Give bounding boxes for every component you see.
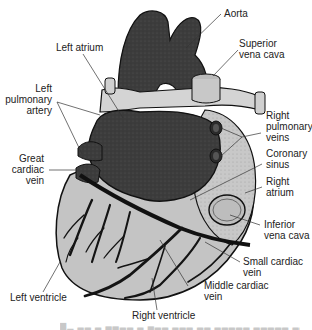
label-left-ventricle: Left ventricle [10, 292, 67, 303]
label-inferior-vena-cava-line2: vena cava [264, 230, 310, 241]
inferior-vena-cava-opening [209, 195, 245, 225]
label-right-pulmonary-veins-line1: Right [266, 110, 289, 121]
heart-diagram-figure: Aorta Superior vena cava Left atrium Lef… [0, 0, 312, 330]
label-great-cardiac-vein-line2: cardiac [12, 164, 44, 175]
label-left-atrium: Left atrium [56, 42, 103, 53]
label-right-atrium-line1: Right [266, 176, 289, 187]
label-coronary-sinus-line1: Coronary [266, 148, 307, 159]
label-left-pulmonary-artery-line3: artery [26, 105, 52, 116]
label-inferior-vena-cava-line1: Inferior [264, 219, 295, 230]
label-superior-vena-cava-line2: vena cava [239, 49, 285, 60]
label-great-cardiac-vein-line3: vein [26, 175, 44, 186]
label-left-pulmonary-artery-line1: Left [35, 83, 52, 94]
label-middle-cardiac-vein-line1: Middle cardiac [204, 280, 268, 291]
right-pulmonary-stub [255, 92, 265, 114]
label-middle-cardiac-vein-line2: vein [204, 291, 222, 302]
label-small-cardiac-vein-line1: Small cardiac [243, 256, 303, 267]
figure-caption: ▆▁ ▂▂ ▂ ▃▃▂▂ ▂ ▃▂▂ ▂▂▂ ▂▂ ▂▂▂▂▂ ▂▂▂▂▂ ▂▂ [60, 321, 300, 330]
label-aorta: Aorta [224, 8, 248, 19]
label-right-ventricle: Right ventricle [132, 310, 195, 321]
label-great-cardiac-vein-line1: Great [19, 153, 44, 164]
label-superior-vena-cava-line1: Superior [239, 38, 277, 49]
label-small-cardiac-vein-line2: vein [243, 267, 261, 278]
label-right-atrium-line2: atrium [266, 187, 294, 198]
label-right-pulmonary-veins-line3: veins [266, 132, 289, 143]
pulmonary-artery-tube [100, 87, 260, 112]
label-right-pulmonary-veins-line2: pulmonary [266, 121, 312, 132]
label-coronary-sinus-line2: sinus [266, 159, 289, 170]
label-left-pulmonary-artery-line2: pulmonary [5, 94, 52, 105]
